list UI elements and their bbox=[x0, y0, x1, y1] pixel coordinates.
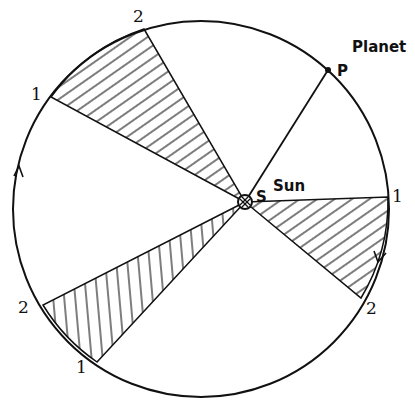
planet-dot bbox=[325, 67, 331, 73]
sun-label: Sun bbox=[273, 177, 305, 195]
planet-label: Planet bbox=[352, 38, 406, 56]
kepler-orbit-diagram: Planet P Sun S 1 2 1 2 2 1 bbox=[0, 0, 415, 408]
lower-left-sector bbox=[43, 202, 245, 362]
upper-left-sector bbox=[51, 29, 245, 202]
sun-point-label: S bbox=[256, 188, 267, 206]
right-sector bbox=[245, 197, 388, 298]
planet-point-label: P bbox=[337, 62, 348, 80]
top-left-2-label: 2 bbox=[133, 6, 144, 26]
bottom-left-1-label: 1 bbox=[76, 357, 87, 377]
right-2-label: 2 bbox=[366, 298, 377, 318]
right-1-label: 1 bbox=[392, 186, 403, 206]
bottom-left-2-label: 2 bbox=[18, 297, 29, 317]
top-left-1-label: 1 bbox=[31, 84, 42, 104]
sun-icon bbox=[238, 195, 252, 209]
